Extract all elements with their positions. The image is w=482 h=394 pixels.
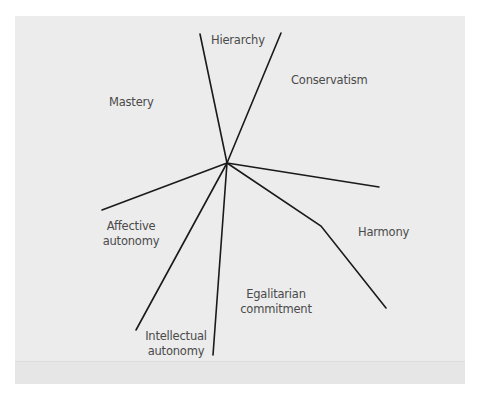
affective-mastery-divider — [102, 163, 227, 210]
divider-lines — [0, 0, 482, 394]
label-egalitarian-commitment: Egalitarian commitment — [239, 287, 313, 317]
label-intellectual-line2: autonomy — [143, 344, 209, 359]
hierarchy-mastery-divider — [200, 34, 227, 163]
label-egalitarian-line1: Egalitarian — [239, 287, 313, 302]
egalitarian-intellectual-divider — [213, 163, 227, 355]
conservatism-harmony-divider — [227, 163, 379, 187]
label-egalitarian-line2: commitment — [239, 302, 313, 317]
label-conservatism: Conservatism — [291, 73, 368, 88]
label-affective-line2: autonomy — [100, 234, 162, 249]
label-harmony: Harmony — [358, 225, 409, 240]
hierarchy-conservatism-divider — [227, 33, 281, 163]
label-intellectual-line1: Intellectual — [143, 329, 209, 344]
label-affective-line1: Affective — [100, 219, 162, 234]
label-mastery: Mastery — [109, 95, 154, 110]
label-intellectual-autonomy: Intellectual autonomy — [143, 329, 209, 359]
label-hierarchy: Hierarchy — [211, 33, 265, 48]
label-affective-autonomy: Affective autonomy — [100, 219, 162, 249]
